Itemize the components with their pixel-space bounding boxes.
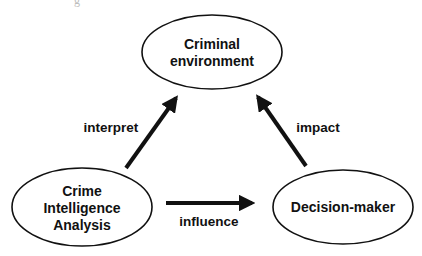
- node-decision-maker: Decision-maker: [273, 170, 413, 244]
- edge-label: impact: [296, 120, 340, 135]
- node-crime-intelligence-analysis: Crime Intelligence Analysis: [12, 168, 152, 246]
- edge-label: influence: [179, 214, 239, 229]
- edge-label: interpret: [84, 120, 139, 135]
- edge-interpret: interpret: [84, 98, 176, 168]
- node-label-line: Analysis: [53, 217, 111, 233]
- node-label-line: environment: [170, 53, 254, 69]
- node-criminal-environment: Criminal environment: [142, 15, 282, 89]
- edge-impact: impact: [258, 97, 340, 166]
- diagram-canvas: g Criminal environment Crime Intelligenc…: [0, 0, 422, 256]
- caption-fragment: g: [74, 0, 80, 7]
- node-label-line: Intelligence: [43, 200, 120, 216]
- node-label-line: Criminal: [184, 36, 240, 52]
- edge-influence: influence: [166, 203, 252, 229]
- node-label-line: Decision-maker: [291, 199, 396, 215]
- node-ellipse: [142, 15, 282, 89]
- node-label-line: Crime: [62, 183, 102, 199]
